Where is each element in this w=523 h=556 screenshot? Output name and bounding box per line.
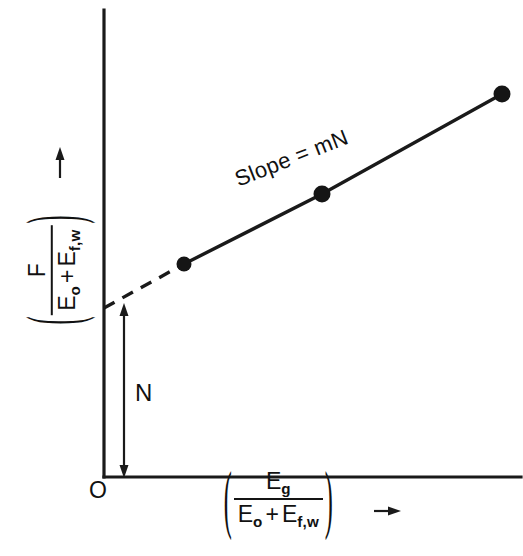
- data-point: [494, 86, 511, 103]
- x-axis-den-first-symbol: E: [238, 501, 253, 527]
- right-arrow-icon: [388, 507, 401, 516]
- y-axis-fraction-bar: [51, 226, 53, 315]
- x-axis-fraction: Eg Eo+Ef,w: [234, 470, 323, 529]
- x-axis-numerator: Eg: [234, 470, 323, 497]
- y-axis-den-first-symbol: E: [54, 296, 80, 311]
- intercept-arrowhead-up: [120, 303, 129, 316]
- x-axis-numerator-subscript: g: [281, 480, 290, 497]
- data-point: [314, 186, 331, 203]
- y-axis-den-first-subscript: o: [66, 286, 83, 295]
- trend-line: [184, 94, 502, 264]
- y-axis-den-second-subscript: f,w: [66, 230, 83, 252]
- up-arrow-icon: [56, 147, 65, 160]
- figure-canvas: O N Slope = mN ( Eg Eo+Ef,w ) ( F Eo+Ef,…: [0, 0, 523, 556]
- x-axis-fraction-bar: [234, 498, 323, 500]
- x-axis-open-paren: (: [224, 462, 232, 538]
- y-axis-label: ( F Eo+Ef,w ): [26, 170, 82, 370]
- extrapolation-dashed-line: [104, 264, 184, 308]
- y-axis-fraction: F Eo+Ef,w: [26, 226, 82, 315]
- x-axis-den-second-subscript: f,w: [297, 513, 319, 530]
- y-axis-den-second-symbol: E: [54, 251, 80, 266]
- x-axis-numerator-symbol: E: [266, 468, 281, 494]
- y-axis-denominator: Eo+Ef,w: [55, 226, 82, 315]
- x-axis-close-paren: ): [325, 462, 333, 538]
- y-axis-close-paren: ): [16, 216, 92, 224]
- intercept-label-n: N: [135, 381, 152, 405]
- y-axis-open-paren: (: [16, 317, 92, 325]
- y-axis-numerator: F: [26, 226, 50, 315]
- x-axis-den-operator: +: [262, 501, 281, 527]
- x-axis-denominator: Eo+Ef,w: [234, 502, 323, 529]
- data-point: [177, 257, 192, 272]
- y-axis-den-operator: +: [54, 267, 80, 286]
- y-axis-numerator-symbol: F: [24, 263, 50, 277]
- x-axis-den-second-symbol: E: [282, 501, 297, 527]
- origin-label: O: [89, 479, 107, 502]
- x-axis-label: ( Eg Eo+Ef,w ): [222, 470, 335, 529]
